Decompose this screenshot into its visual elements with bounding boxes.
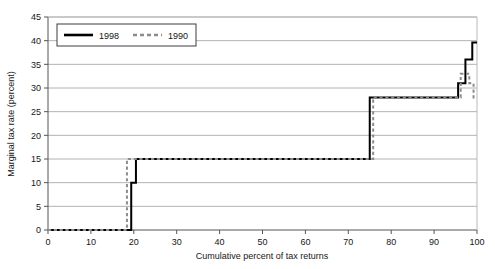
y-tick-label-45: 45	[31, 12, 41, 22]
x-tick-label-70: 70	[343, 237, 353, 247]
y-tick-label-35: 35	[31, 60, 41, 70]
y-tick-label-10: 10	[31, 178, 41, 188]
x-tick-label-30: 30	[172, 237, 182, 247]
y-tick-label-5: 5	[36, 202, 41, 212]
x-tick-label-0: 0	[45, 237, 50, 247]
y-axis-title: Marginal tax rate (percent)	[6, 71, 16, 177]
y-tick-label-20: 20	[31, 131, 41, 141]
y-tick-label-15: 15	[31, 154, 41, 164]
y-tick-label-30: 30	[31, 83, 41, 93]
x-tick-label-90: 90	[429, 237, 439, 247]
x-tick-label-50: 50	[257, 237, 267, 247]
chart-figure: 051015202530354045 010203040506070809010…	[0, 0, 495, 269]
y-tick-label-25: 25	[31, 107, 41, 117]
x-tick-label-20: 20	[129, 237, 139, 247]
legend-label-1990: 1990	[168, 31, 188, 41]
marginal-tax-rate-step-chart: 051015202530354045 010203040506070809010…	[0, 0, 495, 269]
y-tick-label-0: 0	[36, 225, 41, 235]
x-tick-label-10: 10	[86, 237, 96, 247]
x-axis-title: Cumulative percent of tax returns	[196, 251, 329, 261]
x-tick-label-60: 60	[300, 237, 310, 247]
y-tick-label-40: 40	[31, 36, 41, 46]
x-tick-label-80: 80	[386, 237, 396, 247]
x-tick-label-40: 40	[215, 237, 225, 247]
legend-label-1998: 1998	[99, 31, 119, 41]
x-tick-label-100: 100	[469, 237, 484, 247]
legend: 1998 1990	[57, 24, 196, 46]
